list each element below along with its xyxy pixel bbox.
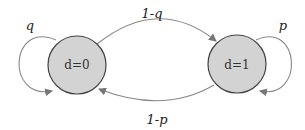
- label-1-q: 1-q: [142, 6, 163, 21]
- label-p: p: [279, 18, 288, 33]
- edge-d0-to-d1: [97, 19, 216, 44]
- state-d0-label: d=0: [64, 58, 89, 72]
- state-d1-label: d=1: [224, 58, 249, 72]
- label-1-p: 1-p: [147, 112, 169, 127]
- markov-diagram: d=0 d=1 q 1-q p 1-p: [0, 0, 305, 130]
- label-q: q: [26, 18, 34, 33]
- edge-d1-to-d0: [99, 85, 214, 101]
